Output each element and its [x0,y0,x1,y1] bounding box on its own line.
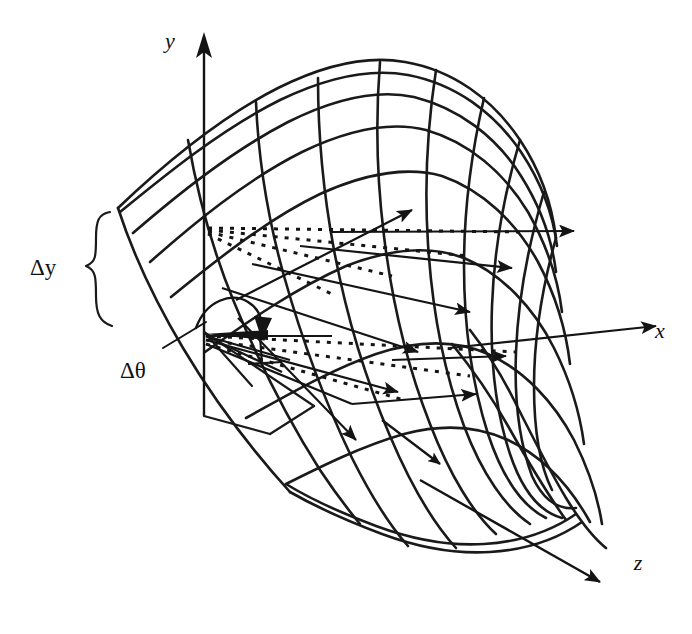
delta-theta-arc [196,298,262,328]
figure-root: y x z Δy Δθ [0,0,692,634]
mesh-meridian-1 [188,140,360,524]
ray-arrow-1 [330,231,574,232]
y-axis-label: y [163,28,175,53]
diagram-canvas: y x z Δy Δθ [0,0,692,634]
ray-arrow-8 [352,394,476,404]
ray-arrow-3 [252,264,470,312]
mesh-top-edge [118,60,556,238]
dotted-ray-3 [208,232,392,276]
delta-theta-label: Δθ [120,358,146,383]
mesh-top-edge-inner [120,73,557,246]
y-axis [196,32,212,332]
delta-y-brace [86,212,112,326]
wedge-lower-right [270,406,314,434]
z-axis-label: z [633,550,643,575]
mesh-fold-right-2 [452,344,566,520]
x-axis-label: x [654,318,665,343]
wedge-lower-left [204,416,270,434]
mesh-meridian-5 [426,70,530,524]
brace-curly [86,212,112,326]
delta-y-label: Δy [30,255,57,280]
mesh-surface [118,60,606,553]
